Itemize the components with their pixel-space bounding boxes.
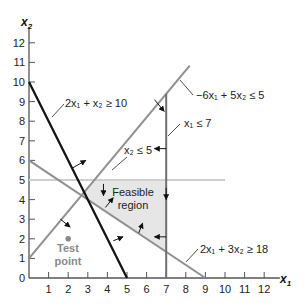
- direction-arrow-icon: [113, 237, 123, 241]
- y-tick-label: 6: [19, 154, 25, 166]
- y-tick-label: 2: [19, 233, 25, 245]
- x-tick-label: 12: [258, 283, 270, 295]
- x-axis-title: x1: [279, 272, 292, 288]
- y-tick-label: 10: [13, 76, 25, 88]
- constraint-label-neg6x1-5x2: −6x₁ + 5x₂ ≤ 5: [196, 89, 264, 101]
- x-tick-label: 11: [239, 283, 250, 295]
- leader-line: [186, 249, 198, 262]
- y-tick-label: 8: [19, 115, 25, 127]
- x-tick-label: 7: [163, 283, 169, 295]
- constraint-label-2x1-3x2: 2x₁ + 3x₂ ≥ 18: [200, 243, 268, 255]
- constraint-label-x2-le-5: x₂ ≤ 5: [124, 144, 152, 156]
- y-tick-label: 12: [13, 37, 25, 49]
- test-point-marker: [65, 236, 71, 242]
- y-tick-label: 9: [19, 96, 25, 108]
- x-tick-label: 5: [124, 283, 130, 295]
- y-tick-label: 1: [19, 252, 25, 264]
- test-point-label: point: [55, 255, 82, 267]
- y-tick-label: 5: [19, 174, 25, 186]
- leader-line: [168, 124, 180, 136]
- feasible-region-label: region: [118, 199, 149, 211]
- y-tick-label: 3: [19, 213, 25, 225]
- x-tick-label: 10: [219, 283, 231, 295]
- feasible-region-label: Feasible: [112, 186, 154, 198]
- leader-line: [180, 80, 193, 95]
- y-tick-label: 0: [19, 272, 25, 284]
- x-tick-label: 9: [202, 283, 208, 295]
- y-tick-label: 7: [19, 135, 25, 147]
- constraint-label-x1-le-7: x₁ ≤ 7: [184, 117, 211, 129]
- leader-line: [52, 104, 64, 117]
- x-tick-label: 4: [104, 283, 110, 295]
- x-tick-label: 2: [65, 283, 71, 295]
- constraint-label-2x1-x2: 2x₁ + x₂ ≥ 10: [65, 97, 127, 109]
- y-axis-title: x2: [20, 15, 33, 31]
- x-tick-label: 1: [46, 283, 52, 295]
- direction-arrow-icon: [72, 160, 86, 168]
- x-tick-label: 6: [144, 283, 150, 295]
- x-tick-label: 3: [85, 283, 91, 295]
- linear-programming-diagram: 1234567891011120123456789101112 x2 x1 2x…: [0, 0, 307, 307]
- y-tick-label: 11: [14, 56, 25, 68]
- test-point-label: Test: [57, 242, 79, 254]
- leader-line: [112, 157, 127, 170]
- y-tick-label: 4: [19, 194, 25, 206]
- direction-arrow-icon: [60, 219, 70, 227]
- x-tick-label: 8: [183, 283, 189, 295]
